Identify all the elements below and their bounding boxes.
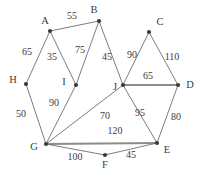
weighted-graph-figure: ABCDEFGHIJ556535754590110659580509070120… (0, 0, 207, 178)
node-label-a: A (41, 16, 49, 27)
node-label-f: F (102, 160, 108, 171)
node-label-h: H (9, 75, 17, 86)
edge-layer (26, 21, 178, 155)
edge-weight-f-e: 45 (126, 150, 136, 160)
graph-node-f (103, 153, 107, 157)
edge-weight-a-b: 55 (67, 11, 77, 21)
graph-edge-h-g (26, 84, 46, 144)
graph-edge-i-g (46, 85, 76, 144)
graph-node-i (74, 83, 78, 87)
graph-node-a (48, 29, 52, 33)
edge-weight-c-j: 90 (127, 50, 137, 60)
edge-weight-a-h: 65 (22, 47, 32, 57)
graph-edge-g-e (46, 143, 157, 144)
edge-weight-g-e: 120 (108, 126, 123, 136)
node-label-i: I (62, 77, 66, 88)
graph-node-b (97, 19, 101, 23)
edge-weight-g-f: 100 (68, 152, 83, 162)
node-label-c: C (156, 17, 163, 28)
graph-node-j (121, 83, 125, 87)
edge-weight-b-i: 75 (75, 45, 85, 55)
edge-weight-j-e: 95 (135, 108, 145, 118)
graph-edge-a-b (50, 21, 99, 31)
node-label-b: B (90, 5, 97, 16)
graph-node-c (147, 30, 151, 34)
graph-node-e (155, 141, 159, 145)
edge-weight-i-g: 90 (49, 98, 59, 108)
node-layer (24, 19, 180, 157)
edge-weight-j-d: 65 (143, 71, 153, 81)
node-label-e: E (164, 145, 170, 156)
edge-weight-d-e: 80 (171, 112, 181, 122)
edge-weight-c-d: 110 (165, 52, 180, 62)
graph-node-h (24, 82, 28, 86)
edge-weight-g-j: 70 (100, 111, 110, 121)
edge-weight-b-j: 45 (102, 52, 112, 62)
graph-node-g (44, 142, 48, 146)
node-label-g: G (30, 142, 38, 153)
node-label-j: J (113, 82, 117, 93)
edge-weight-a-i: 35 (47, 52, 57, 62)
node-label-d: D (186, 80, 194, 91)
edge-weight-h-g: 50 (16, 109, 26, 119)
graph-node-d (176, 83, 180, 87)
